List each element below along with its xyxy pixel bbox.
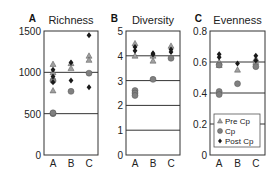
y-tick-label: 0 <box>201 150 207 161</box>
legend: Pre CpCpPost Cp <box>214 114 260 147</box>
circle-marker <box>216 62 222 68</box>
circle-marker <box>253 64 259 70</box>
diamond-marker <box>87 84 92 90</box>
figure: 050010001500ABCARichness012345ABCBDivers… <box>0 0 276 177</box>
x-tick-label: B <box>68 158 75 169</box>
x-tick-label: A <box>132 158 139 169</box>
diamond-marker <box>235 61 240 67</box>
x-tick-label: C <box>85 158 92 169</box>
triangle-marker <box>150 58 156 63</box>
diamond-marker <box>87 32 92 38</box>
circle-marker <box>168 55 174 61</box>
circle-marker <box>132 92 138 98</box>
triangle-marker <box>50 61 56 66</box>
x-tick-label: B <box>234 158 241 169</box>
x-tick-label: A <box>216 158 223 169</box>
circle-marker <box>68 88 74 94</box>
y-tick-label: 0.4 <box>193 88 207 99</box>
triangle-marker <box>50 88 56 93</box>
triangle-marker <box>235 67 241 72</box>
diamond-marker <box>217 54 222 60</box>
y-tick-label: 0.2 <box>193 119 207 130</box>
x-tick-label: B <box>150 158 157 169</box>
legend-label: Cp <box>225 127 236 136</box>
circle-marker <box>50 110 56 116</box>
y-tick-label: 1000 <box>19 67 42 78</box>
y-tick-label: 1500 <box>19 26 42 37</box>
panel-label: A <box>29 13 36 24</box>
circle-marker <box>218 129 223 134</box>
panel-a: 050010001500ABCARichness <box>19 13 98 169</box>
y-tick-label: 0 <box>35 150 41 161</box>
x-tick-label: C <box>252 158 259 169</box>
circle-marker <box>216 92 222 98</box>
y-tick-label: 1 <box>117 125 123 136</box>
y-tick-label: 0.6 <box>193 57 207 68</box>
circle-marker <box>86 70 92 76</box>
triangle-marker <box>68 65 74 70</box>
diamond-marker <box>133 48 138 54</box>
legend-label: Pre Cp <box>225 117 250 126</box>
panel-b: 012345ABCBDiversity <box>111 13 180 169</box>
y-tick-label: 4 <box>117 51 123 62</box>
x-tick-label: C <box>167 158 174 169</box>
circle-marker <box>150 76 156 82</box>
y-tick-label: 5 <box>117 26 123 37</box>
panel-title: Richness <box>48 14 94 26</box>
panel-label: C <box>195 13 202 24</box>
y-tick-label: 3 <box>117 76 123 87</box>
panel-label: B <box>111 13 118 24</box>
chart-canvas: 050010001500ABCARichness012345ABCBDivers… <box>0 0 276 177</box>
x-tick-label: A <box>50 158 57 169</box>
panel-title: Diversity <box>132 14 175 26</box>
y-tick-label: 0 <box>117 150 123 161</box>
circle-marker <box>235 81 241 87</box>
diamond-marker <box>69 78 74 84</box>
y-tick-label: 2 <box>117 100 123 111</box>
y-tick-label: 0.8 <box>193 26 207 37</box>
legend-label: Post Cp <box>225 137 254 146</box>
panel-title: Evenness <box>213 14 262 26</box>
y-tick-label: 500 <box>24 109 41 120</box>
